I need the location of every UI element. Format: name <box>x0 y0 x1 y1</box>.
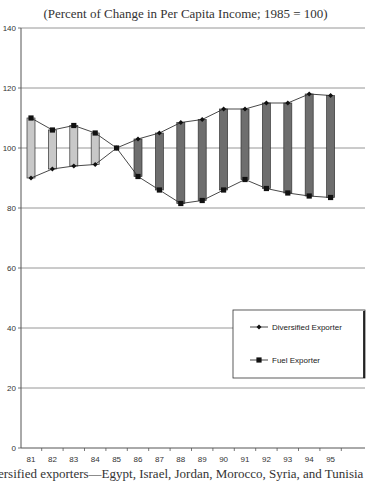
square-marker-icon <box>264 186 269 191</box>
x-tick-label: 83 <box>69 455 78 464</box>
high-low-bar <box>27 118 35 178</box>
x-tick-label: 92 <box>262 455 271 464</box>
y-tick-label: 140 <box>3 24 17 33</box>
square-marker-icon <box>285 190 290 195</box>
high-low-bar <box>262 103 270 189</box>
y-tick-label: 80 <box>7 204 16 213</box>
square-marker-icon <box>178 201 183 206</box>
square-marker-icon <box>200 198 205 203</box>
high-low-bar <box>198 120 206 201</box>
x-tick-label: 91 <box>241 455 250 464</box>
high-low-bar <box>134 139 142 177</box>
y-tick-label: 0 <box>12 444 17 453</box>
x-tick-label: 81 <box>27 455 36 464</box>
square-marker-icon <box>307 193 312 198</box>
y-tick-label: 120 <box>3 84 17 93</box>
square-marker-icon <box>242 177 247 182</box>
x-tick-label: 95 <box>326 455 335 464</box>
y-tick-label: 60 <box>7 264 16 273</box>
high-low-bar <box>177 123 185 204</box>
high-low-bar <box>327 96 335 198</box>
high-low-bar <box>241 109 249 180</box>
x-tick-label: 84 <box>91 455 100 464</box>
square-marker-icon <box>328 195 333 200</box>
high-low-bar <box>284 103 292 193</box>
legend-label-fuel: Fuel Exporter <box>272 356 320 365</box>
x-tick-label: 93 <box>283 455 292 464</box>
y-tick-label: 40 <box>7 324 16 333</box>
square-marker-icon <box>28 115 33 120</box>
high-low-bar <box>155 133 163 190</box>
x-tick-label: 89 <box>198 455 207 464</box>
x-tick-label: 85 <box>112 455 121 464</box>
square-marker-icon <box>114 145 119 150</box>
square-marker-icon <box>221 187 226 192</box>
square-marker-icon <box>135 174 140 179</box>
square-marker-icon <box>71 123 76 128</box>
y-tick-label: 20 <box>7 384 16 393</box>
x-tick-label: 90 <box>219 455 228 464</box>
x-tick-label: 86 <box>134 455 143 464</box>
x-tick-label: 87 <box>155 455 164 464</box>
x-tick-label: 94 <box>305 455 314 464</box>
x-tick-label: 82 <box>48 455 57 464</box>
figure-caption-partial: ersified exporters—Egypt, Israel, Jordan… <box>0 466 363 482</box>
square-marker-icon <box>93 130 98 135</box>
x-tick-label: 88 <box>176 455 185 464</box>
high-low-bar <box>220 109 228 190</box>
legend-square-icon <box>256 357 261 362</box>
high-low-bar <box>91 133 99 165</box>
square-marker-icon <box>50 127 55 132</box>
square-marker-icon <box>157 187 162 192</box>
y-tick-label: 100 <box>3 144 17 153</box>
high-low-bar <box>48 130 56 169</box>
high-low-bar <box>305 94 313 196</box>
legend-label-diversified: Diversified Exporter <box>272 323 342 332</box>
legend-box <box>233 310 365 378</box>
high-low-bar <box>70 126 78 167</box>
